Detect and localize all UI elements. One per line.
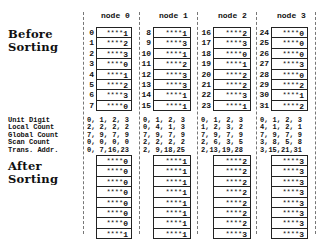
masked-digits: ****	[106, 199, 123, 207]
array-cell: ****3	[272, 156, 307, 166]
element-index: 10	[137, 49, 151, 58]
masked-digits: ****	[225, 178, 242, 186]
masked-digits: ****	[106, 91, 123, 99]
array-cell: ****1	[154, 28, 190, 38]
stat-value: 3,15,21,31	[260, 147, 302, 154]
array-cell: ****0	[97, 187, 131, 197]
array-cell: ****1	[154, 187, 190, 197]
element-index: 2	[80, 49, 94, 58]
array-cell: ****3	[214, 229, 250, 238]
element-index: 22	[197, 90, 211, 99]
masked-digits: ****	[282, 199, 299, 207]
unit-digit: 1	[182, 91, 187, 100]
array-cell: ****3	[272, 198, 307, 208]
array-cell: ****2	[214, 218, 250, 228]
array-cell: ****1	[214, 59, 250, 69]
array-cell: ****2	[214, 208, 250, 218]
element-index: 6	[80, 90, 94, 99]
unit-digit: 2	[242, 209, 247, 218]
masked-digits: ****	[106, 81, 123, 89]
array-cell: ****1	[97, 229, 131, 238]
masked-digits: ****	[225, 39, 242, 47]
masked-digits: ****	[225, 60, 242, 68]
stat-labels: Unit Digit Local Count Global Count Scan…	[8, 117, 58, 154]
masked-digits: ****	[106, 188, 123, 196]
unit-digit: 3	[299, 178, 304, 187]
element-index: 31	[255, 101, 269, 110]
element-index: 3	[80, 59, 94, 68]
masked-digits: ****	[282, 178, 299, 186]
node-header: node 1	[159, 11, 188, 20]
masked-digits: ****	[106, 39, 123, 47]
array-cell: ****0	[97, 218, 131, 228]
unit-digit: 1	[123, 29, 128, 38]
masked-digits: ****	[282, 39, 299, 47]
masked-digits: ****	[106, 50, 123, 58]
unit-digit: 0	[242, 50, 247, 59]
unit-digit: 1	[182, 50, 187, 59]
array-cell: ****2	[214, 198, 250, 208]
unit-digit: 3	[299, 230, 304, 239]
stat-value: 2, 9,18,25	[143, 147, 185, 154]
masked-digits: ****	[282, 29, 299, 37]
masked-digits: ****	[225, 29, 242, 37]
masked-digits: ****	[282, 209, 299, 217]
array-cell: ****0	[97, 166, 131, 176]
masked-digits: ****	[282, 230, 299, 238]
array-cell: ****2	[214, 187, 250, 197]
node-header: node 2	[218, 11, 247, 20]
masked-digits: ****	[225, 219, 242, 227]
unit-digit: 1	[182, 219, 187, 228]
before-sorting-array: ****0****0****0****3****0****2****1****2	[271, 27, 308, 111]
array-cell: ****1	[154, 229, 190, 238]
unit-digit: 0	[299, 71, 304, 80]
array-cell: ****2	[97, 38, 131, 48]
unit-digit: 2	[123, 39, 128, 48]
unit-digit: 2	[242, 167, 247, 176]
before-sorting-array: ****2****3****0****1****2****2****3****1	[213, 27, 251, 111]
masked-digits: ****	[225, 71, 242, 79]
array-cell: ****1	[97, 28, 131, 38]
array-cell: ****0	[272, 49, 307, 59]
unit-digit: 2	[242, 188, 247, 197]
title-line: Sorting	[8, 41, 58, 54]
array-cell: ****1	[154, 49, 190, 59]
element-index: 0	[80, 28, 94, 37]
unit-digit: 2	[299, 81, 304, 90]
unit-digit: 1	[182, 178, 187, 187]
array-cell: ****1	[154, 218, 190, 228]
array-cell: ****2	[272, 80, 307, 90]
unit-digit: 0	[299, 29, 304, 38]
node-stats: 0, 1, 2, 34, 1, 2, 17, 9, 7, 93, 8, 5, 8…	[260, 117, 302, 154]
after-sorting-title: After Sorting	[8, 160, 58, 186]
unit-digit: 0	[123, 60, 128, 69]
array-cell: ****0	[97, 177, 131, 187]
array-cell: ****3	[214, 38, 250, 48]
stat-value: 2,13,19,28	[201, 147, 243, 154]
unit-digit: 1	[182, 102, 187, 111]
masked-digits: ****	[225, 199, 242, 207]
array-cell: ****2	[97, 80, 131, 90]
masked-digits: ****	[106, 157, 123, 165]
array-cell: ****3	[154, 38, 190, 48]
unit-digit: 3	[182, 39, 187, 48]
masked-digits: ****	[225, 91, 242, 99]
element-index: 1	[80, 38, 94, 47]
unit-digit: 1	[182, 209, 187, 218]
array-cell: ****0	[97, 59, 131, 69]
masked-digits: ****	[225, 230, 242, 238]
masked-digits: ****	[225, 50, 242, 58]
array-cell: ****2	[214, 177, 250, 187]
stat-value: 0, 7,16,23	[87, 147, 129, 154]
array-cell: ****2	[214, 80, 250, 90]
masked-digits: ****	[282, 50, 299, 58]
masked-digits: ****	[165, 50, 182, 58]
masked-digits: ****	[282, 71, 299, 79]
unit-digit: 2	[182, 60, 187, 69]
element-index: 13	[137, 80, 151, 89]
before-sorting-title: Before Sorting	[8, 28, 58, 54]
masked-digits: ****	[282, 157, 299, 165]
unit-digit: 3	[299, 188, 304, 197]
unit-digit: 0	[123, 167, 128, 176]
unit-digit: 2	[299, 102, 304, 111]
